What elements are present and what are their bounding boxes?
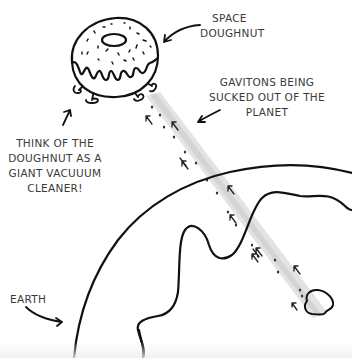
label-earth: EARTH [10, 292, 46, 307]
space-doughnut-arrow-icon [164, 25, 200, 42]
label-line: PLANET [206, 105, 328, 120]
label-line: GAVITONS BEING [206, 75, 328, 90]
label-line: SUCKED OUT OF THE [206, 90, 328, 105]
earth [74, 165, 352, 358]
upward-arrow-icons [146, 116, 300, 310]
vacuum-arrow-icon [63, 110, 71, 125]
label-line: THINK OF THE [4, 136, 106, 151]
bottom-shadow [0, 342, 352, 358]
label-line: GIANT VACUUUM [4, 166, 106, 181]
space-doughnut [72, 18, 158, 103]
label-line: CLEANER! [4, 181, 106, 196]
graviton-beam [146, 92, 327, 318]
label-vacuum: THINK OF THE DOUGHNUT AS A GIANT VACUUUM… [4, 136, 106, 196]
label-space-doughnut: SPACE DOUGHNUT [200, 11, 264, 41]
earth-outline [74, 165, 352, 358]
earth-arrow-icon [26, 307, 62, 326]
label-line: EARTH [10, 292, 46, 307]
label-gravitons: GAVITONS BEING SUCKED OUT OF THE PLANET [206, 75, 328, 120]
label-line: DOUGHNUT [200, 26, 264, 41]
doughnut-body [72, 18, 158, 97]
label-line: DOUGHNUT AS A [4, 151, 106, 166]
label-line: SPACE [200, 11, 264, 26]
